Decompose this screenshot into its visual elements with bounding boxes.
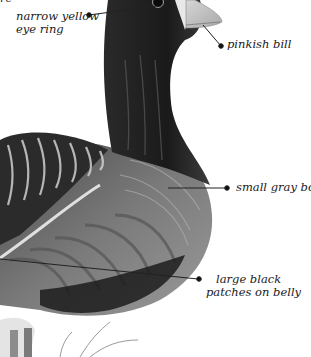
label-belly-line2: patches on belly <box>206 286 301 299</box>
label-bill-line1: pinkish bill <box>227 38 291 51</box>
label-eye-ring: narrow yellow eye ring <box>16 10 99 36</box>
label-eye-ring-line2: eye ring <box>16 23 99 36</box>
label-belly: large black patches on belly <box>206 273 301 299</box>
goose-illustration <box>0 0 311 357</box>
label-bill: pinkish bill <box>227 38 291 51</box>
label-body: small gray body <box>236 181 311 194</box>
top-text-fragment: re <box>0 0 12 5</box>
goose-legs <box>0 318 35 357</box>
label-body-line1: small gray body <box>236 181 311 194</box>
grass <box>60 322 138 357</box>
goose-diagram: re narrow yellow eye ring pinkish bill s… <box>0 0 311 357</box>
